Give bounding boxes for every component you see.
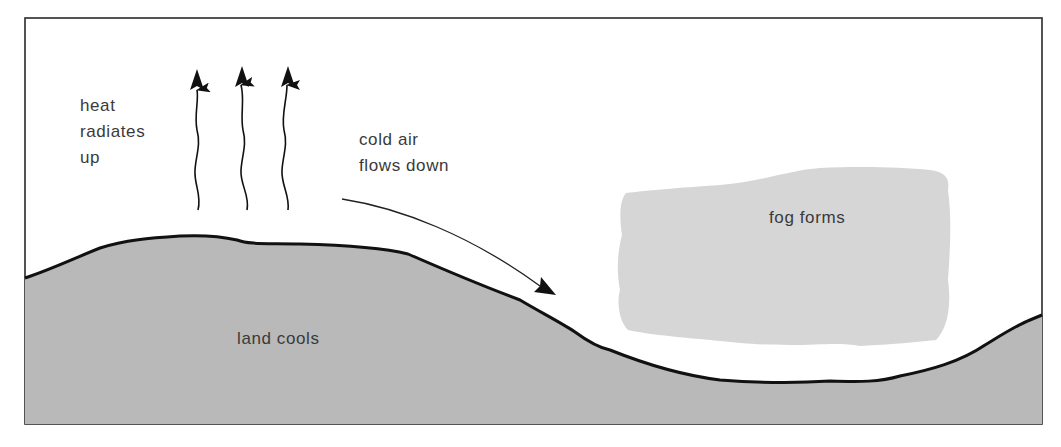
label-heat-radiates-up: heat radiates up	[80, 93, 145, 171]
fog-formation-diagram	[0, 0, 1061, 447]
label-cold-air-flows-down: cold air flows down	[359, 127, 449, 179]
label-land-cools: land cools	[237, 326, 320, 352]
fog-cloud	[618, 167, 950, 346]
label-fog-forms: fog forms	[769, 205, 845, 231]
